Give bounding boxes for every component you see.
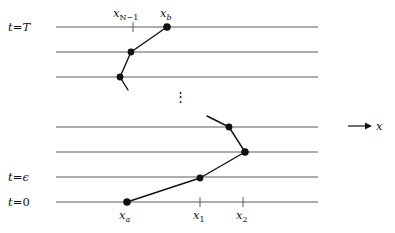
time-slice-lines [56, 27, 318, 202]
position-label-base: x [119, 208, 126, 222]
position-label-x-N-minus-1: xN−1 [113, 6, 138, 20]
x-axis-label: x [376, 119, 383, 133]
lower-worldline [123, 116, 249, 206]
worldline-vertex-dot [226, 124, 233, 131]
worldline-endpoint-dot-xa [123, 198, 131, 206]
position-label-x-b: xb [160, 6, 172, 20]
position-label-x-a: xa [119, 208, 130, 222]
upper-worldline [117, 23, 171, 90]
upper-worldline-path [120, 27, 167, 90]
x-axis-arrow-head [365, 123, 372, 130]
position-label-base: x [193, 208, 200, 222]
time-label-value: 0 [22, 195, 29, 209]
position-label-x-2: x2 [236, 208, 248, 222]
spacetime-lattice-figure: t=T t=ϵ t=0 xN−1 xb xa x1 x2 ⋮ x [0, 0, 395, 233]
worldline-vertex-dot [241, 148, 249, 156]
position-label-base: x [236, 208, 243, 222]
time-label-value: ϵ [22, 170, 29, 184]
worldline-endpoint-dot-xb [163, 23, 171, 31]
worldline-vertex-dot [128, 49, 135, 56]
time-label-t-zero: t=0 [8, 195, 30, 209]
lattice-diagram-canvas [0, 0, 395, 233]
time-label-t-T: t=T [8, 20, 30, 34]
position-label-subscript: b [167, 13, 172, 22]
position-label-base: x [160, 6, 167, 20]
vertical-ellipsis-icon: ⋮ [174, 90, 187, 103]
tick-marks [133, 22, 243, 207]
position-label-base: x [113, 6, 120, 20]
x-axis-arrow-group [348, 123, 372, 130]
time-label-value: T [22, 20, 30, 34]
position-label-subscript: N−1 [120, 13, 139, 22]
time-label-t-epsilon: t=ϵ [8, 170, 29, 184]
position-label-subscript: a [126, 215, 131, 224]
worldline-vertex-dot [197, 175, 204, 182]
worldline-vertex-dot [117, 74, 124, 81]
position-label-subscript: 1 [200, 215, 205, 224]
position-label-subscript: 2 [243, 215, 248, 224]
position-label-x-1: x1 [193, 208, 205, 222]
